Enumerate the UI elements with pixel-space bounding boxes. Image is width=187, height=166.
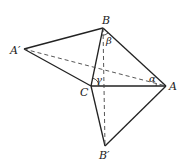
- segment-b-b-prime: [103, 28, 105, 146]
- label-point-c: C: [80, 86, 89, 99]
- segment-a-prime-a: [24, 49, 166, 86]
- label-angle-alpha: α: [149, 73, 156, 84]
- label-angle-gamma: γ: [96, 74, 102, 85]
- label-angle-beta: β: [105, 35, 112, 46]
- segment-a-b-prime: [105, 86, 166, 146]
- label-point-b-prime: B′: [98, 149, 110, 162]
- dashed-segments: [24, 28, 166, 146]
- segment-c-b-prime: [91, 86, 105, 146]
- segment-a-prime-b: [24, 28, 103, 49]
- label-point-a: A: [168, 80, 177, 93]
- segment-a-prime-c: [24, 49, 91, 86]
- angle-arcs: [93, 33, 157, 86]
- geometry-diagram: B A′ C A B′ β γ α: [0, 0, 187, 166]
- solid-segments: [24, 28, 166, 146]
- label-point-b: B: [101, 14, 110, 27]
- label-point-a-prime: A′: [9, 44, 21, 57]
- segment-b-a: [103, 28, 166, 86]
